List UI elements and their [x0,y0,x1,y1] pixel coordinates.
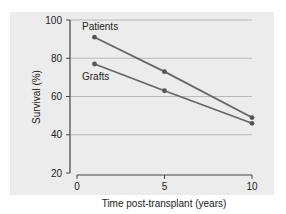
y-tick-label: 60 [51,91,63,102]
y-tick-label: 80 [51,53,63,64]
series-line-grafts [95,64,253,123]
series-labels: PatientsGrafts [82,21,118,82]
series-line-patients [95,37,253,117]
data-point [92,62,97,67]
data-point [250,115,255,120]
y-tick-label: 100 [45,15,62,26]
y-axis: 20406080100 [45,15,70,179]
x-axis-label: Time post-transplant (years) [102,198,227,209]
series-label-grafts: Grafts [82,71,109,82]
x-tick-label: 0 [74,181,80,192]
series-label-patients: Patients [82,21,118,32]
y-tick-label: 20 [51,168,63,179]
x-tick-label: 10 [246,181,258,192]
y-axis-label: Survival (%) [31,70,42,124]
series-group [92,35,254,126]
data-point [162,69,167,74]
x-axis: 0510 [74,175,258,192]
y-tick-label: 40 [51,129,63,140]
x-tick-label: 5 [162,181,168,192]
data-point [92,35,97,40]
line-chart: 20406080100 0510 PatientsGrafts Survival… [0,0,286,214]
data-point [250,121,255,126]
data-point [162,88,167,93]
